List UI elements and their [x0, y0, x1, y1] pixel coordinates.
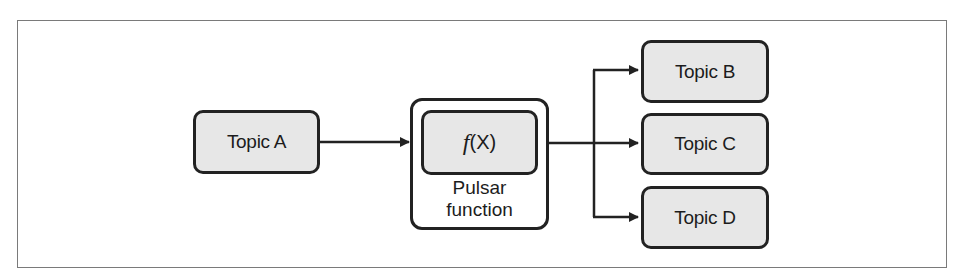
- function-symbol: f: [463, 129, 470, 156]
- topic-a-node: Topic A: [193, 110, 320, 174]
- topic-c-label: Topic C: [674, 133, 735, 155]
- topic-c-node: Topic C: [641, 113, 769, 175]
- topic-b-node: Topic B: [641, 40, 769, 103]
- function-arg: (X): [470, 131, 497, 154]
- topic-b-label: Topic B: [675, 61, 735, 83]
- pulsar-function-container: f (X) Pulsar function: [410, 98, 549, 230]
- topic-d-label: Topic D: [674, 207, 735, 229]
- pulsar-label-line1: Pulsar: [413, 177, 546, 199]
- function-fx-box: f (X): [421, 110, 538, 175]
- pulsar-label-line2: function: [413, 199, 546, 221]
- topic-d-node: Topic D: [641, 186, 769, 249]
- pulsar-function-label: Pulsar function: [413, 177, 546, 221]
- topic-a-label: Topic A: [227, 131, 286, 153]
